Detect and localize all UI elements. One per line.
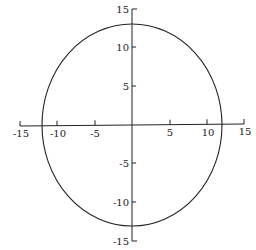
- x-tick-label: -10: [50, 128, 66, 139]
- y-tick-label: 5: [123, 81, 129, 92]
- x-tick-label: 10: [202, 127, 215, 138]
- chart: -15 -10 -5 5 10 15 15 10 5 -5 -10 -15: [0, 0, 256, 250]
- y-tick-label: -10: [113, 197, 129, 208]
- x-tick-label: -5: [90, 128, 100, 139]
- x-tick-label: -15: [13, 128, 29, 139]
- y-tick-label: 15: [116, 4, 129, 15]
- x-tick-label: 15: [239, 126, 252, 137]
- x-tick-label: 5: [167, 127, 173, 138]
- y-tick-label: 10: [116, 42, 129, 53]
- y-tick-label: -15: [113, 236, 129, 247]
- y-tick-label: -5: [119, 158, 129, 169]
